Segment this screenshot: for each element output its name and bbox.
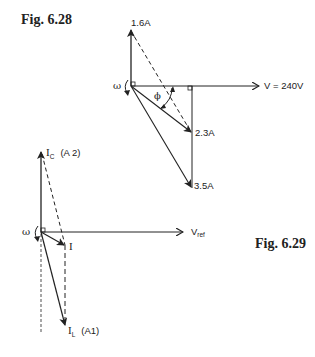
right-angle-mark xyxy=(188,86,192,90)
rotation-arrowhead-icon xyxy=(34,236,40,242)
vref-label: Vref xyxy=(191,226,205,238)
inductive-current-phasor xyxy=(131,86,191,187)
resultant-current-phasor xyxy=(131,86,191,132)
figure-caption: Fig. 6.28 xyxy=(21,12,72,27)
figure-6-29: Vref Fig. 6.29 IC(A 2) I IL(A1) ω xyxy=(22,146,306,338)
dashed-construction-line xyxy=(42,154,65,245)
ic-label: IC(A 2) xyxy=(46,146,80,160)
phi-label: ϕ xyxy=(154,90,161,101)
inductive-current-label: 3.5A xyxy=(194,180,214,191)
omega-label: ω xyxy=(22,226,30,237)
inductor-current-phasor xyxy=(41,232,65,325)
dashed-construction-line xyxy=(131,31,191,132)
omega-label: ω xyxy=(113,80,121,91)
arc-arrow-icon xyxy=(170,86,175,92)
figure-caption: Fig. 6.29 xyxy=(255,236,306,251)
il-label: IL(A1) xyxy=(68,324,99,338)
voltage-label: V = 240V xyxy=(264,80,304,91)
rotation-arrowhead-icon xyxy=(124,90,130,96)
phasor-diagrams: Fig. 6.28 V = 240V 1.6A 3.5A 2.3A ϕ ω xyxy=(0,0,315,357)
resultant-current-label: 2.3A xyxy=(195,127,215,138)
i-label: I xyxy=(69,240,73,252)
capacitive-current-label: 1.6A xyxy=(131,17,151,28)
figure-6-28: Fig. 6.28 V = 240V 1.6A 3.5A 2.3A ϕ ω xyxy=(21,12,304,191)
